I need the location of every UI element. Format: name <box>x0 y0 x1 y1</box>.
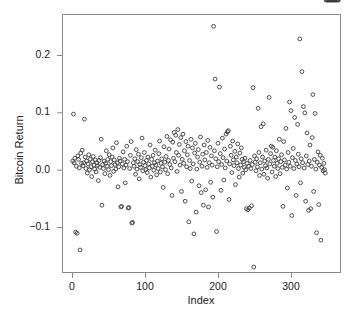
data-point <box>216 141 220 145</box>
data-point <box>226 129 230 133</box>
data-point <box>261 122 265 126</box>
y-tick-label: 0.2 <box>0 48 50 60</box>
data-point <box>111 146 115 150</box>
data-point <box>258 174 262 178</box>
data-point <box>191 146 195 150</box>
data-point <box>142 151 146 155</box>
data-point <box>294 194 298 198</box>
data-point <box>307 159 311 163</box>
data-point <box>137 177 141 181</box>
data-point <box>126 160 130 164</box>
data-point <box>199 191 203 195</box>
data-point <box>322 161 326 165</box>
y-tick-label: 0.1 <box>0 105 50 117</box>
data-point <box>192 232 196 236</box>
data-point <box>241 171 245 175</box>
data-point <box>285 186 289 190</box>
data-point <box>262 172 266 176</box>
data-point <box>78 248 82 252</box>
data-point <box>302 166 306 170</box>
x-axis-title: Index <box>0 294 360 306</box>
data-point <box>263 159 267 163</box>
data-point <box>281 204 285 208</box>
data-point <box>175 169 179 173</box>
data-point <box>267 96 271 100</box>
data-point <box>261 155 265 159</box>
data-point <box>202 143 206 147</box>
data-point <box>296 152 300 156</box>
data-point <box>188 167 192 171</box>
data-point <box>167 147 171 151</box>
data-point <box>177 153 181 157</box>
data-point <box>288 100 292 104</box>
data-point <box>233 149 237 153</box>
data-point <box>220 163 224 167</box>
data-point <box>303 111 307 115</box>
data-point <box>200 164 204 168</box>
data-point <box>248 159 252 163</box>
data-point <box>170 194 174 198</box>
data-point <box>196 148 200 152</box>
data-point <box>100 203 104 207</box>
data-point <box>161 186 165 190</box>
data-point <box>266 176 270 180</box>
data-point <box>269 152 273 156</box>
data-point <box>231 139 235 143</box>
data-point <box>201 152 205 156</box>
data-point <box>234 183 238 187</box>
data-point <box>282 140 286 144</box>
data-point <box>150 157 154 161</box>
data-point <box>112 169 116 173</box>
data-point <box>264 148 268 152</box>
data-point <box>87 153 91 157</box>
data-point <box>297 165 301 169</box>
data-point <box>148 143 152 147</box>
data-point <box>143 164 147 168</box>
data-point <box>276 167 280 171</box>
data-point <box>204 188 208 192</box>
data-point <box>284 126 288 130</box>
data-point <box>187 220 191 224</box>
data-point <box>260 167 264 171</box>
data-point <box>222 178 226 182</box>
data-point <box>227 198 231 202</box>
data-point <box>162 145 166 149</box>
data-point <box>268 162 272 166</box>
scatter-plot-figure: Bitcoin Return Index 0.20.10.0−0.1010020… <box>0 0 360 320</box>
data-point <box>235 161 239 165</box>
data-point <box>203 158 207 162</box>
data-point <box>215 230 219 234</box>
data-point <box>164 155 168 159</box>
data-point <box>313 112 317 116</box>
data-point <box>283 163 287 167</box>
data-point <box>116 185 120 189</box>
data-point <box>204 151 208 155</box>
data-point <box>103 172 107 176</box>
data-point <box>146 155 150 159</box>
data-point <box>99 137 103 141</box>
data-point <box>184 140 188 144</box>
data-point <box>169 138 173 142</box>
data-point <box>155 173 159 177</box>
data-point <box>194 210 198 214</box>
data-point <box>290 214 294 218</box>
data-point <box>101 167 105 171</box>
data-point <box>181 132 185 136</box>
data-point <box>83 155 87 159</box>
data-point <box>298 37 302 41</box>
data-point <box>251 86 255 90</box>
data-point <box>90 175 94 179</box>
y-tick-label: −0.1 <box>0 220 50 232</box>
data-point <box>165 135 169 139</box>
x-tick-label: 200 <box>193 280 243 292</box>
data-point <box>292 167 296 171</box>
data-point <box>287 160 291 164</box>
data-point <box>72 112 76 116</box>
data-point <box>283 158 287 162</box>
x-tick-label: 300 <box>266 280 316 292</box>
data-point <box>96 179 100 183</box>
data-point <box>257 151 261 155</box>
data-point <box>134 148 138 152</box>
data-point <box>160 157 164 161</box>
data-point <box>135 167 139 171</box>
